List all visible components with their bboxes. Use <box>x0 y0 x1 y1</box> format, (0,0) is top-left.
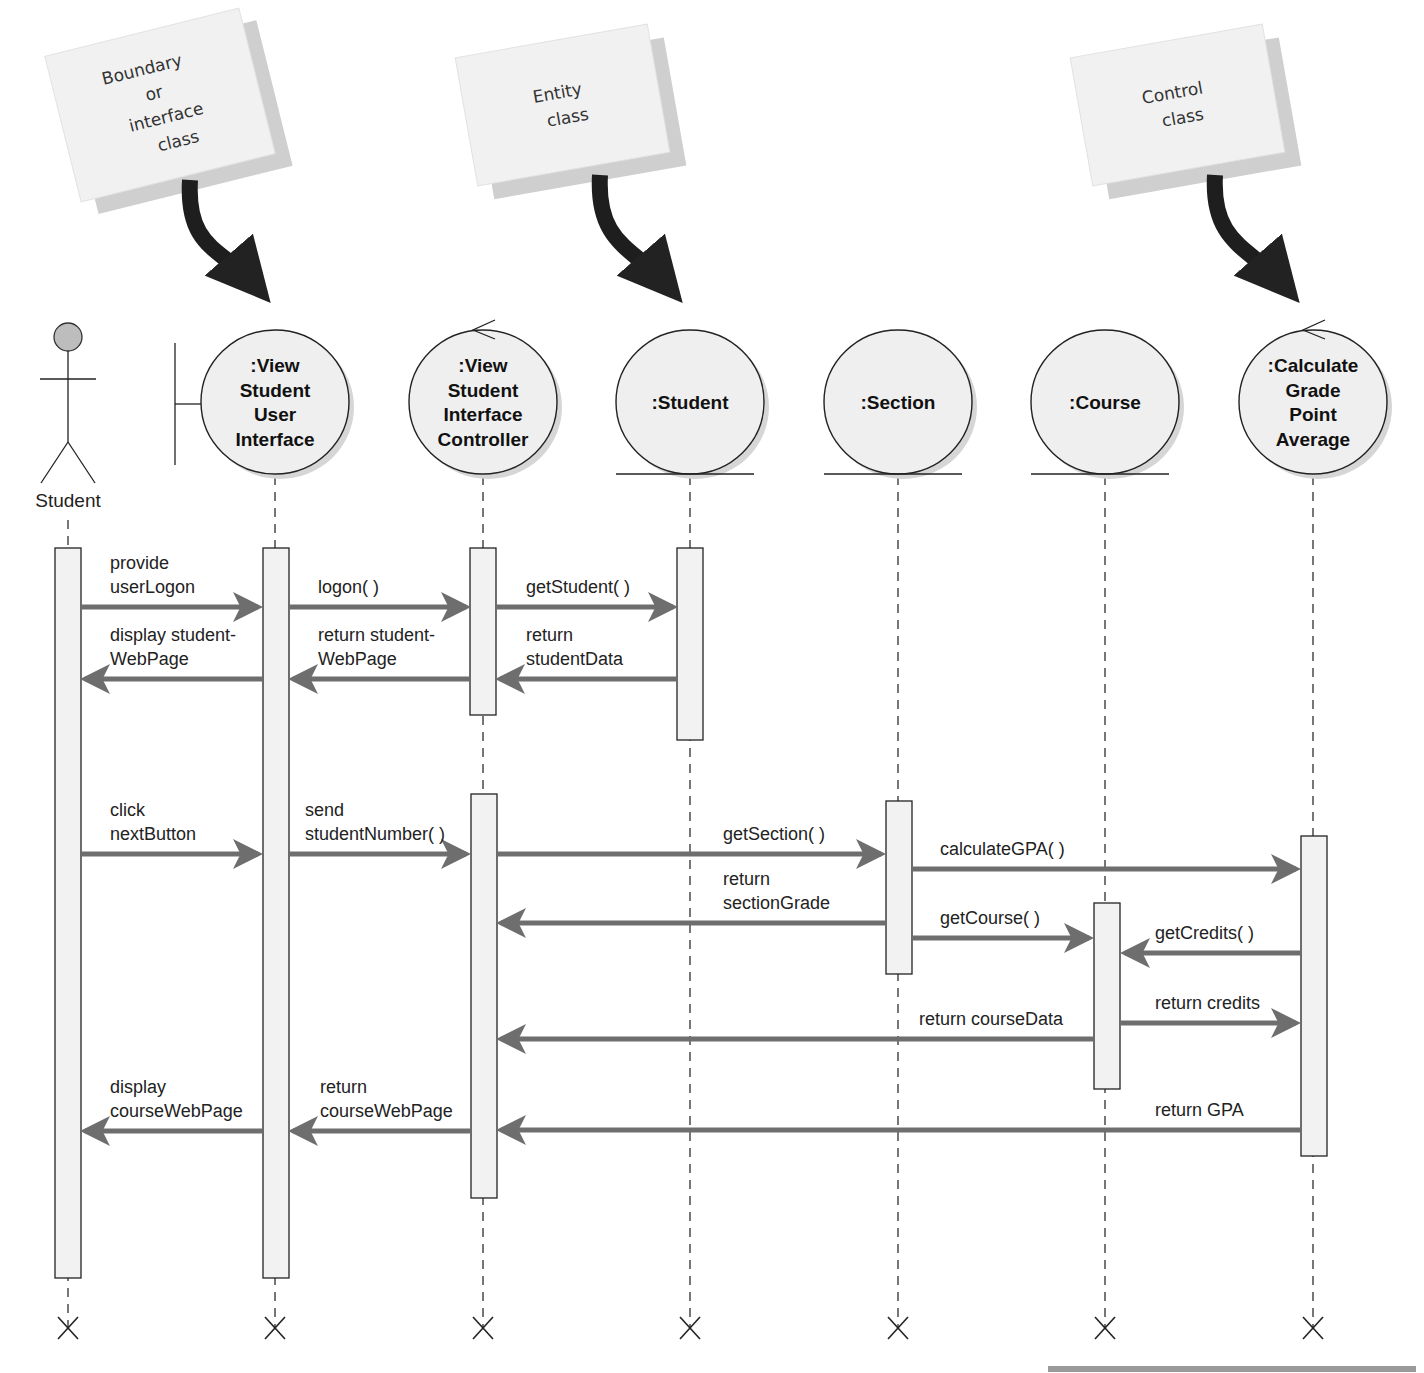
destroy-markers <box>58 1317 1323 1339</box>
message: sendstudentNumber( ) <box>289 800 466 854</box>
message: return courseData <box>501 1009 1093 1039</box>
annotation-notes: BoundaryorinterfaceclassEntityclassContr… <box>45 5 1302 286</box>
message-label: sectionGrade <box>723 893 830 913</box>
note-entity: Entityclass <box>455 22 686 286</box>
object-label: :View <box>250 355 300 376</box>
destroy-x-icon <box>888 1317 908 1339</box>
message-label: return <box>526 625 573 645</box>
object-label: Student <box>448 380 519 401</box>
objects: Student:ViewStudentUserInterface:ViewStu… <box>35 320 1392 511</box>
activation-bar <box>886 801 912 974</box>
message: getSection( ) <box>497 824 881 854</box>
message: getStudent( ) <box>496 577 673 607</box>
message-label: courseWebPage <box>110 1101 243 1121</box>
message: displaycourseWebPage <box>85 1077 262 1131</box>
activation-bar <box>1094 903 1120 1089</box>
object-label: Point <box>1289 404 1337 425</box>
message-label: return student- <box>318 625 435 645</box>
message-label: return GPA <box>1155 1100 1244 1120</box>
message: return student-WebPage <box>293 625 470 679</box>
object-label: User <box>254 404 297 425</box>
pointer-arrow-icon <box>190 180 256 286</box>
message: getCredits( ) <box>1125 923 1300 953</box>
message: provideuserLogon <box>81 553 258 607</box>
message-label: calculateGPA( ) <box>940 839 1065 859</box>
sequence-diagram: BoundaryorinterfaceclassEntityclassContr… <box>0 0 1424 1373</box>
destroy-x-icon <box>265 1317 285 1339</box>
note-control: Controlclass <box>1070 22 1301 286</box>
message-label: send <box>305 800 344 820</box>
message: return GPA <box>501 1100 1300 1130</box>
destroy-x-icon <box>680 1317 700 1339</box>
message-label: return courseData <box>919 1009 1064 1029</box>
object-label: Controller <box>438 429 529 450</box>
message-label: WebPage <box>318 649 397 669</box>
activation-bar <box>677 548 703 740</box>
object-student: :Student <box>616 330 769 479</box>
object-view-ui: :ViewStudentUserInterface <box>175 330 354 479</box>
message-label: WebPage <box>110 649 189 669</box>
object-label: Student <box>240 380 311 401</box>
object-calc-gpa: :CalculateGradePointAverage <box>1239 320 1392 479</box>
object-label: :View <box>458 355 508 376</box>
activation-bar <box>55 548 81 1278</box>
message-label: display student- <box>110 625 236 645</box>
message-label: userLogon <box>110 577 195 597</box>
actor-label: Student <box>35 490 101 511</box>
message-label: return <box>723 869 770 889</box>
message: display student-WebPage <box>85 625 262 679</box>
object-label: :Course <box>1069 392 1141 413</box>
message: return credits <box>1121 993 1296 1023</box>
footer-rule <box>1048 1366 1416 1372</box>
note-boundary: Boundaryorinterfaceclass <box>45 5 293 286</box>
message-label: studentData <box>526 649 624 669</box>
message-label: courseWebPage <box>320 1101 453 1121</box>
message-label: getStudent( ) <box>526 577 630 597</box>
message-label: display <box>110 1077 166 1097</box>
activation-bars <box>55 548 1327 1278</box>
object-label: Grade <box>1286 380 1341 401</box>
message-label: getSection( ) <box>723 824 825 844</box>
message: logon( ) <box>289 577 466 607</box>
object-label: Average <box>1276 429 1350 450</box>
message: calculateGPA( ) <box>912 839 1296 869</box>
message: clicknextButton <box>81 800 258 854</box>
object-view-controller: :ViewStudentInterfaceController <box>409 320 562 479</box>
message-label: provide <box>110 553 169 573</box>
message-label: return credits <box>1155 993 1260 1013</box>
message-label: getCredits( ) <box>1155 923 1254 943</box>
pointer-arrow-icon <box>1215 175 1285 286</box>
message-label: return <box>320 1077 367 1097</box>
message-label: logon( ) <box>318 577 379 597</box>
activation-bar <box>470 548 496 715</box>
activation-bar <box>263 548 289 1278</box>
object-label: Interface <box>235 429 314 450</box>
object-label: :Calculate <box>1268 355 1359 376</box>
message-label: getCourse( ) <box>940 908 1040 928</box>
message-label: studentNumber( ) <box>305 824 445 844</box>
destroy-x-icon <box>1303 1317 1323 1339</box>
message-label: nextButton <box>110 824 196 844</box>
message: returnstudentData <box>500 625 677 679</box>
destroy-x-icon <box>1095 1317 1115 1339</box>
activation-bar <box>1301 836 1327 1156</box>
object-label: Interface <box>443 404 522 425</box>
actor-head-icon <box>54 323 82 351</box>
object-section: :Section <box>824 330 977 479</box>
pointer-arrow-icon <box>600 175 668 286</box>
message: getCourse( ) <box>912 908 1089 938</box>
message-label: click <box>110 800 146 820</box>
object-label: :Section <box>861 392 936 413</box>
message: returnsectionGrade <box>501 869 885 923</box>
object-label: :Student <box>651 392 729 413</box>
activation-bar <box>471 794 497 1198</box>
actor-student: Student <box>35 323 101 511</box>
destroy-x-icon <box>473 1317 493 1339</box>
object-course: :Course <box>1031 330 1184 479</box>
message: returncourseWebPage <box>293 1077 470 1131</box>
